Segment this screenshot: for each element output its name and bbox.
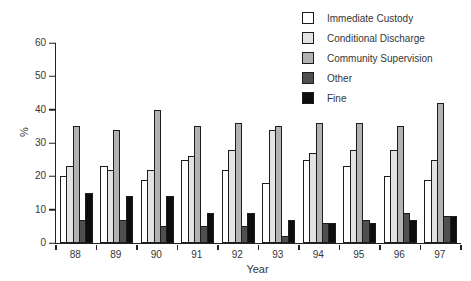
bar-fine-88 <box>85 193 92 243</box>
x-category-label-88: 88 <box>55 249 96 260</box>
y-tick-10 <box>49 209 56 211</box>
y-tick-label-0: 0 <box>40 238 46 248</box>
y-tick-0 <box>49 242 56 244</box>
y-tick-60 <box>49 42 56 44</box>
bar-group-90 <box>137 43 178 243</box>
x-category-label-93: 93 <box>258 249 299 260</box>
bar-fine-93 <box>288 220 295 243</box>
bar-fine-91 <box>207 213 214 243</box>
legend-swatch-immediate-custody <box>302 12 314 24</box>
y-tick-label-50: 50 <box>35 71 46 81</box>
bar-group-93 <box>259 43 300 243</box>
bar-group-91 <box>178 43 219 243</box>
bar-group-94 <box>299 43 340 243</box>
bar-group-97 <box>421 43 462 243</box>
bar-fine-97 <box>450 216 457 243</box>
x-category-label-94: 94 <box>298 249 339 260</box>
bar-fine-90 <box>166 196 173 243</box>
bar-group-92 <box>218 43 259 243</box>
x-category-label-92: 92 <box>217 249 258 260</box>
x-category-label-95: 95 <box>339 249 380 260</box>
legend-label-immediate-custody: Immediate Custody <box>327 13 413 24</box>
legend-label-conditional-discharge: Conditional Discharge <box>327 33 425 44</box>
x-category-label-89: 89 <box>96 249 137 260</box>
plot-area: 0102030405060 <box>55 43 461 244</box>
bars-container <box>56 43 461 243</box>
x-category-label-91: 91 <box>177 249 218 260</box>
x-category-label-90: 90 <box>136 249 177 260</box>
bar-group-89 <box>97 43 138 243</box>
legend-row-immediate-custody: Immediate Custody <box>302 8 433 28</box>
bar-fine-95 <box>369 223 376 243</box>
x-axis-label: Year <box>55 263 460 275</box>
y-tick-label-60: 60 <box>35 38 46 48</box>
y-tick-30 <box>49 142 56 144</box>
bar-fine-92 <box>247 213 254 243</box>
y-tick-label-20: 20 <box>35 171 46 181</box>
bar-fine-96 <box>409 220 416 243</box>
x-category-label-96: 96 <box>379 249 420 260</box>
y-tick-20 <box>49 176 56 178</box>
bar-fine-94 <box>328 223 335 243</box>
bar-group-95 <box>340 43 381 243</box>
y-tick-label-30: 30 <box>35 138 46 148</box>
y-tick-label-40: 40 <box>35 105 46 115</box>
y-axis-label: % <box>18 122 30 142</box>
x-category-labels: 88899091929394959697 <box>55 249 460 260</box>
y-tick-40 <box>49 109 56 111</box>
x-tick-10 <box>460 245 462 250</box>
y-tick-50 <box>49 76 56 78</box>
chart-figure: Immediate CustodyConditional DischargeCo… <box>0 0 471 281</box>
bar-community-supervision-93 <box>275 126 282 243</box>
x-category-label-97: 97 <box>420 249 461 260</box>
bar-group-88 <box>56 43 97 243</box>
bar-group-96 <box>380 43 421 243</box>
bar-fine-89 <box>126 196 133 243</box>
y-tick-label-10: 10 <box>35 205 46 215</box>
bar-community-supervision-90 <box>154 110 161 243</box>
bar-community-supervision-92 <box>235 123 242 243</box>
